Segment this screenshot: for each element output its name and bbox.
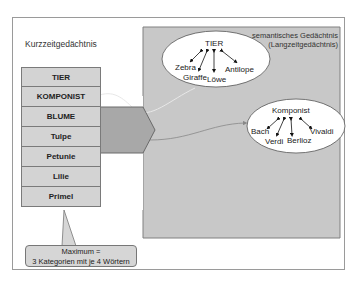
member-label: Antilope bbox=[225, 65, 254, 74]
stack-item: Primel bbox=[21, 187, 101, 207]
ltm-title-line2: (Langzeitgedächtnis) bbox=[228, 40, 338, 49]
callout-pointer bbox=[62, 210, 76, 246]
callout-line1: Maximum = bbox=[26, 247, 136, 257]
category-label-komponist: Komponist bbox=[272, 106, 310, 115]
member-label: Berlioz bbox=[287, 136, 311, 145]
short-term-memory-title: Kurzzeitgedächtnis bbox=[25, 39, 97, 49]
stack-item: Petunie bbox=[21, 147, 101, 167]
member-label: Verdi bbox=[265, 137, 283, 146]
stack-item: Tulpe bbox=[21, 127, 101, 147]
member-label: Giraffe bbox=[183, 73, 207, 82]
capacity-callout: Maximum = 3 Kategorien mit je 4 Wörtern bbox=[25, 245, 137, 267]
member-label: Bach bbox=[251, 127, 269, 136]
stack-item: KOMPONIST bbox=[21, 87, 101, 107]
stack-item: BLUME bbox=[21, 107, 101, 127]
ltm-title-line1: semantisches Gedächtnis bbox=[228, 31, 338, 40]
callout-line2: 3 Kategorien mit je 4 Wörtern bbox=[26, 257, 136, 267]
member-label: Vivaldi bbox=[310, 127, 333, 136]
category-label-tier: TIER bbox=[205, 39, 223, 48]
member-label: Zebra bbox=[175, 63, 196, 72]
stack-item: Lilie bbox=[21, 167, 101, 187]
short-term-memory-stack: TIER KOMPONIST BLUME Tulpe Petunie Lilie… bbox=[21, 67, 101, 207]
long-term-memory-title: semantisches Gedächtnis (Langzeitgedächt… bbox=[228, 31, 338, 49]
stack-item: TIER bbox=[21, 67, 101, 87]
member-label: Löwe bbox=[207, 75, 226, 84]
